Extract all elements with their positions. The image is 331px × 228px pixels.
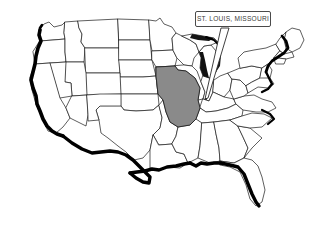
coast-louisiana-gulf <box>190 163 221 166</box>
state-colorado <box>86 73 121 95</box>
state-iowa <box>152 50 177 67</box>
us-map-svg <box>0 0 331 228</box>
state-minnesota <box>149 18 176 51</box>
state-new-york <box>238 44 280 68</box>
state-oklahoma <box>121 94 159 111</box>
state-montana <box>78 19 119 48</box>
state-kansas <box>120 76 158 94</box>
state-arizona <box>66 95 88 126</box>
state-south-dakota <box>119 40 152 60</box>
state-nebraska <box>119 60 156 77</box>
callout-label-text: ST. LOUIS, MISSOURI <box>197 16 269 23</box>
us-map-figure: ST. LOUIS, MISSOURI <box>0 0 331 228</box>
state-north-dakota <box>118 19 150 40</box>
callout-label-box[interactable]: ST. LOUIS, MISSOURI <box>195 11 271 27</box>
state-wyoming <box>85 48 120 73</box>
callout-target-point <box>205 98 207 100</box>
